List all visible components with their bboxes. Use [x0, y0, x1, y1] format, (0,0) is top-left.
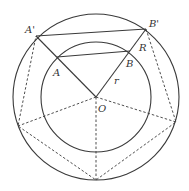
label-R: R	[138, 42, 147, 53]
radius-OA'	[36, 36, 96, 97]
label-A-prime: A'	[24, 24, 35, 35]
label-B: B	[125, 58, 133, 69]
spoke-right	[96, 97, 176, 122]
label-B-prime: B'	[148, 18, 159, 29]
radius-OB'	[96, 29, 146, 97]
label-O: O	[98, 103, 106, 114]
geometry-diagram: A' B' A B R r O	[0, 0, 189, 191]
segment-AB	[57, 51, 130, 57]
segment-A'B'	[36, 29, 146, 36]
label-r: r	[114, 75, 120, 86]
spoke-left	[18, 97, 96, 126]
label-A: A	[52, 67, 60, 78]
